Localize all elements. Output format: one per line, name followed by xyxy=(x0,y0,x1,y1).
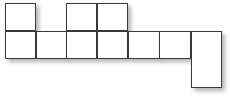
grid-cell[interactable] xyxy=(97,3,129,32)
grid-cell[interactable] xyxy=(191,31,222,89)
grid-cell[interactable] xyxy=(66,31,97,60)
cell-grid-diagram xyxy=(0,0,230,104)
grid-cell[interactable] xyxy=(36,31,67,60)
grid-cell[interactable] xyxy=(128,31,160,60)
grid-cell[interactable] xyxy=(5,31,36,60)
grid-cell[interactable] xyxy=(5,3,36,32)
grid-cell[interactable] xyxy=(66,3,97,32)
grid-cell[interactable] xyxy=(159,31,191,60)
grid-cell[interactable] xyxy=(97,31,129,60)
